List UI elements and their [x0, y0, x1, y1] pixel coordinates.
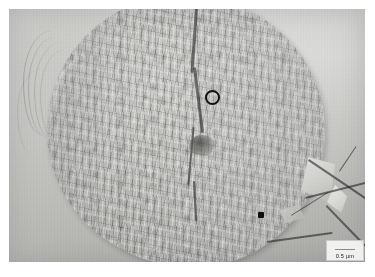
- micrograph-plate: 0.5 µm: [9, 9, 365, 262]
- scale-bar-inset: 0.5 µm: [326, 240, 364, 261]
- scale-bar-label: 0.5 µm: [336, 253, 354, 259]
- scale-bar-line: [335, 249, 355, 251]
- micrograph-figure: 0.5 µm: [0, 0, 375, 277]
- illumination-sheen: [9, 9, 365, 262]
